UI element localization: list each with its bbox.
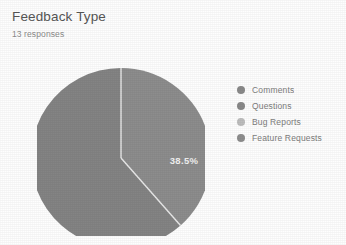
- pie-chart-card: Feedback Type 13 responses 38.5%61.5% Co…: [0, 0, 346, 245]
- legend-item-comments[interactable]: Comments: [237, 82, 346, 98]
- pie-chart: 38.5%61.5%: [37, 68, 205, 245]
- legend-item-bug-reports[interactable]: Bug Reports: [237, 114, 346, 130]
- legend-item-feature-requests[interactable]: Feature Requests: [237, 130, 346, 146]
- pie-slice-label: 38.5%: [170, 155, 199, 166]
- legend-item-questions[interactable]: Questions: [237, 98, 346, 114]
- chart-legend: Comments Questions Bug Reports Feature R…: [237, 82, 346, 146]
- legend-swatch-icon: [237, 134, 245, 142]
- response-count: 13 responses: [12, 28, 272, 40]
- page-title: Feedback Type: [12, 8, 272, 25]
- legend-item-label: Comments: [252, 85, 294, 96]
- legend-item-label: Feature Requests: [252, 133, 322, 144]
- legend-swatch-icon: [237, 102, 245, 110]
- legend-swatch-icon: [237, 118, 245, 126]
- legend-swatch-icon: [237, 86, 245, 94]
- pie-label-layer: 38.5%61.5%: [37, 68, 205, 245]
- legend-item-label: Questions: [252, 101, 292, 112]
- legend-item-label: Bug Reports: [252, 117, 301, 128]
- chart-header: Feedback Type 13 responses: [12, 8, 272, 40]
